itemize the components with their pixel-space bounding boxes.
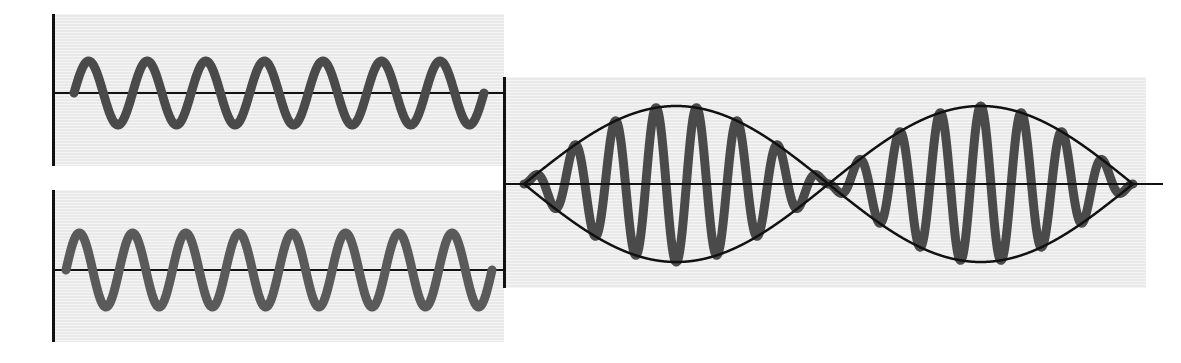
beats-resultant-panel <box>503 77 1146 288</box>
beats-figure <box>0 0 1181 363</box>
upper-left-wave-panel <box>52 14 504 166</box>
wave-b-plot <box>52 190 522 350</box>
lower-left-wave-panel <box>52 190 504 342</box>
beats-plot <box>503 77 1181 297</box>
sine-wave-a <box>74 61 484 125</box>
wave-a-plot <box>52 14 522 174</box>
